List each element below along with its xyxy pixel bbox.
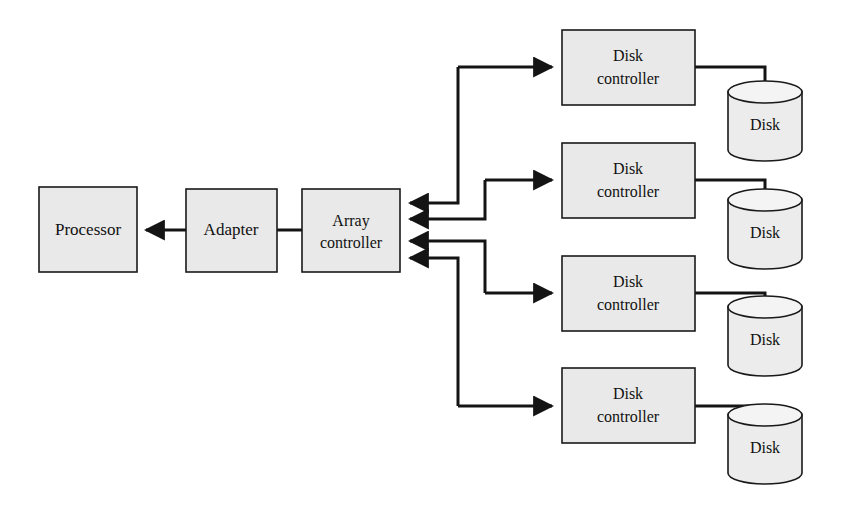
disk-controller-3-label-line1: Disk	[613, 273, 643, 290]
node-adapter[interactable]: Adapter	[186, 189, 277, 272]
disk-4-top	[728, 404, 802, 426]
disk-4-label: Disk	[750, 439, 780, 456]
node-disk-controller-1[interactable]: Disk controller	[562, 30, 695, 105]
disk-controller-3-label-line2: controller	[597, 296, 660, 313]
processor-label: Processor	[55, 220, 121, 239]
array-controller-box[interactable]	[302, 189, 400, 272]
disk-1-top	[728, 81, 802, 103]
edge-return-disk-controller-2	[410, 180, 485, 219]
disk-controller-2-label-line2: controller	[597, 183, 660, 200]
edge-return-disk-controller-4	[410, 258, 458, 406]
disk-3-top	[728, 296, 802, 318]
disk-controller-4-label-line2: controller	[597, 408, 660, 425]
node-disk-3[interactable]: Disk	[728, 296, 802, 376]
node-disk-1[interactable]: Disk	[728, 81, 802, 161]
adapter-label: Adapter	[204, 220, 259, 239]
array-controller-label-line1: Array	[332, 212, 369, 230]
disk-3-label: Disk	[750, 331, 780, 348]
node-processor[interactable]: Processor	[39, 187, 137, 272]
array-controller-label-line2: controller	[320, 234, 383, 251]
diagram-svg: Processor Adapter Array controller Disk …	[0, 0, 848, 505]
disk-controller-2-label-line1: Disk	[613, 160, 643, 177]
node-disk-controller-3[interactable]: Disk controller	[562, 256, 695, 331]
disk-1-label: Disk	[750, 116, 780, 133]
disk-2-top	[728, 189, 802, 211]
disk-controller-2-box[interactable]	[562, 143, 695, 218]
node-disk-controller-4[interactable]: Disk controller	[562, 368, 695, 443]
diagram-canvas: Processor Adapter Array controller Disk …	[0, 0, 848, 505]
disk-controller-1-box[interactable]	[562, 30, 695, 105]
node-disk-controller-2[interactable]: Disk controller	[562, 143, 695, 218]
edge-return-disk-controller-3	[410, 241, 485, 293]
disk-controller-4-box[interactable]	[562, 368, 695, 443]
disk-controller-1-label-line2: controller	[597, 70, 660, 87]
disk-controller-4-label-line1: Disk	[613, 385, 643, 402]
disk-controller-3-box[interactable]	[562, 256, 695, 331]
edge-return-disk-controller-1	[410, 67, 458, 203]
node-array-controller[interactable]: Array controller	[302, 189, 400, 272]
node-disk-2[interactable]: Disk	[728, 189, 802, 269]
node-disk-4[interactable]: Disk	[728, 404, 802, 484]
disk-2-label: Disk	[750, 224, 780, 241]
disk-controller-1-label-line1: Disk	[613, 47, 643, 64]
